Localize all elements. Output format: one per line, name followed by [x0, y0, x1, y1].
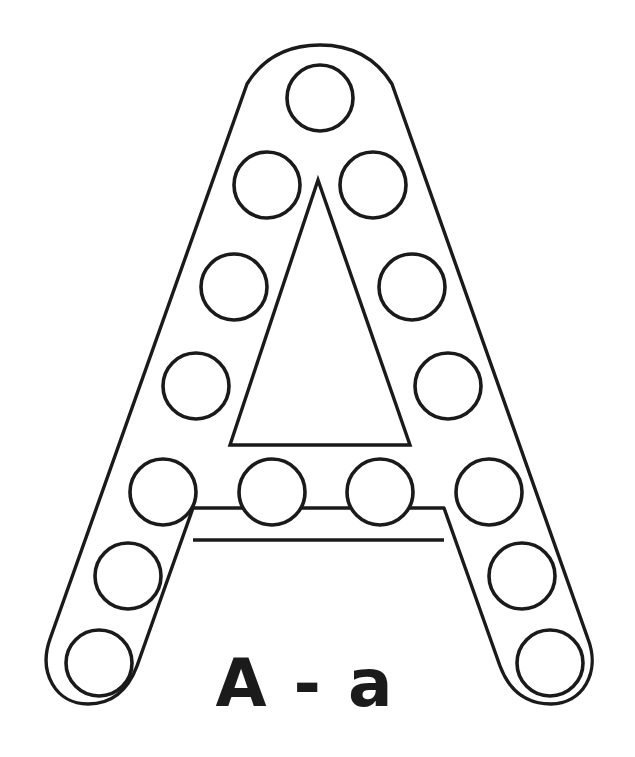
worksheet-canvas: A - a: [0, 0, 635, 757]
dot-marker-circle[interactable]: [95, 543, 161, 609]
dot-marker-circle[interactable]: [340, 152, 406, 218]
dot-marker-circle[interactable]: [415, 353, 481, 419]
caption-label: A - a: [216, 645, 395, 722]
dot-marker-circle[interactable]: [130, 459, 196, 525]
dot-marker-circle[interactable]: [456, 459, 522, 525]
dot-marker-circle[interactable]: [489, 543, 555, 609]
letter-a-illustration: A - a: [0, 0, 635, 757]
dot-marker-circle[interactable]: [379, 254, 445, 320]
dot-marker-circle[interactable]: [517, 630, 583, 696]
dot-marker-circle[interactable]: [163, 353, 229, 419]
dot-marker-circle[interactable]: [234, 152, 300, 218]
dot-marker-circle[interactable]: [347, 459, 413, 525]
dot-marker-circle[interactable]: [287, 65, 353, 131]
dot-marker-circle[interactable]: [239, 459, 305, 525]
dot-marker-circle[interactable]: [201, 254, 267, 320]
dot-marker-circle[interactable]: [66, 630, 132, 696]
